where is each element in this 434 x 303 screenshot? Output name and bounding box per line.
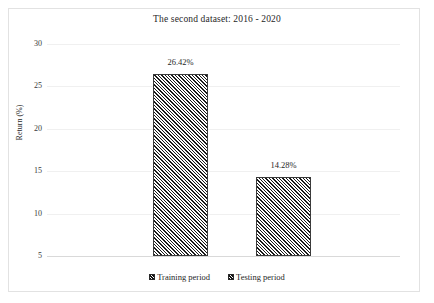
y-axis-title: Return (%) <box>15 88 24 158</box>
plot-area: 26.42% 14.28% <box>47 44 400 256</box>
y-tick-label-15: 15 <box>16 167 42 175</box>
y-tick-label-10: 10 <box>16 210 42 218</box>
hatched-square-marker-icon <box>149 274 155 280</box>
gridline-25 <box>47 86 400 87</box>
legend-item-training-period[interactable]: Training period <box>149 272 210 282</box>
gridline-20 <box>47 129 400 130</box>
gridline-10 <box>47 214 400 215</box>
x-axis-line <box>47 256 400 257</box>
bar-label-testing-period: 14.28% <box>246 161 321 170</box>
y-tick-label-30: 30 <box>16 40 42 48</box>
bar-testing-period[interactable] <box>256 177 311 256</box>
bar-training-period[interactable] <box>153 74 208 256</box>
gridline-30 <box>47 44 400 45</box>
gridline-15 <box>47 171 400 172</box>
legend-item-testing-period[interactable]: Testing period <box>228 272 285 282</box>
chart-figure: The second dataset: 2016 - 2020 30 25 20… <box>0 0 434 303</box>
legend-label-training-period: Training period <box>157 272 210 282</box>
bar-label-training-period: 26.42% <box>143 58 218 67</box>
chart-title: The second dataset: 2016 - 2020 <box>0 14 434 24</box>
legend-label-testing-period: Testing period <box>236 272 285 282</box>
y-tick-label-5: 5 <box>16 252 42 260</box>
chart-legend: Training period Testing period <box>0 272 434 282</box>
hatched-square-marker-icon <box>228 274 234 280</box>
